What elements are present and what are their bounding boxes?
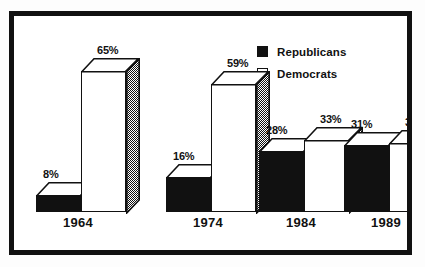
bar-1989-republicans bbox=[344, 145, 389, 212]
bar-front-face bbox=[389, 143, 407, 212]
plot-area: Republicans Democrats 8%65%196416%59%197… bbox=[14, 16, 407, 250]
value-label-1964-republicans: 8% bbox=[43, 168, 59, 180]
bar-1964-democrats bbox=[81, 71, 126, 212]
year-label-1964: 1964 bbox=[63, 215, 93, 230]
chart-frame: Republicans Democrats 8%65%196416%59%197… bbox=[9, 11, 412, 255]
bar-front-face bbox=[344, 145, 389, 212]
bar-1984-democrats bbox=[304, 140, 349, 212]
bar-1984-republicans bbox=[259, 151, 304, 212]
bar-front-face bbox=[259, 151, 304, 212]
bar-group-container: 8%65%196416%59%197428%33%198431%32%1989 bbox=[14, 16, 407, 250]
bar-1974-democrats bbox=[211, 84, 256, 212]
value-label-1984-democrats: 33% bbox=[320, 113, 341, 125]
value-label-1989-democrats: 32% bbox=[405, 116, 407, 128]
bar-1974-republicans bbox=[166, 177, 211, 212]
value-label-1974-republicans: 16% bbox=[173, 150, 194, 162]
bar-front-face bbox=[166, 177, 211, 212]
value-label-1984-republicans: 28% bbox=[266, 124, 287, 136]
bar-front-face bbox=[36, 195, 81, 212]
year-label-1989: 1989 bbox=[371, 215, 401, 230]
bar-front-face bbox=[81, 71, 126, 212]
value-label-1964-democrats: 65% bbox=[97, 44, 118, 56]
bar-1989-democrats bbox=[389, 143, 407, 212]
year-label-1974: 1974 bbox=[193, 215, 223, 230]
bar-side-face bbox=[126, 58, 140, 214]
bar-1964-republicans bbox=[36, 195, 81, 212]
year-label-1984: 1984 bbox=[286, 215, 316, 230]
value-label-1974-democrats: 59% bbox=[227, 57, 248, 69]
bar-front-face bbox=[304, 140, 349, 212]
bar-front-face bbox=[211, 84, 256, 212]
value-label-1989-republicans: 31% bbox=[351, 118, 372, 130]
